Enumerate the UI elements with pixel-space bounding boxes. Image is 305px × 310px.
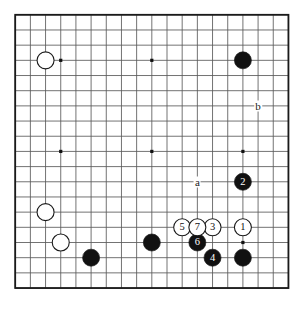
go-board-canvas: 1234567 xyxy=(0,0,305,310)
stone-move-6-black[interactable]: 6 xyxy=(189,234,206,251)
star-point xyxy=(59,59,62,62)
stone-move-number: 2 xyxy=(240,176,245,187)
stone-move-number: 1 xyxy=(240,221,245,232)
stone-white-upper-left[interactable] xyxy=(37,52,54,69)
white-stone-disc xyxy=(37,204,54,221)
stone-white-left-lower-2[interactable] xyxy=(52,234,69,251)
star-point xyxy=(150,150,153,153)
black-stone-disc xyxy=(143,234,160,251)
stone-move-5-white[interactable]: 5 xyxy=(174,219,191,236)
stone-move-number: 3 xyxy=(210,221,215,232)
stone-move-number: 5 xyxy=(180,221,185,232)
stone-move-7-white[interactable]: 7 xyxy=(189,219,206,236)
black-stone-disc xyxy=(234,249,251,266)
stone-black-bottom-right[interactable] xyxy=(234,249,251,266)
stone-black-bottom-center[interactable] xyxy=(143,234,160,251)
point-label-b: b xyxy=(254,100,262,111)
stone-black-upper-right[interactable] xyxy=(234,52,251,69)
stone-move-number: 6 xyxy=(195,236,200,247)
stone-move-number: 7 xyxy=(195,221,200,232)
stone-move-number: 4 xyxy=(210,252,216,263)
star-point xyxy=(150,59,153,62)
stone-move-3-white[interactable]: 3 xyxy=(204,219,221,236)
point-label-a: a xyxy=(194,176,201,187)
white-stone-disc xyxy=(52,234,69,251)
black-stone-disc xyxy=(83,249,100,266)
star-point xyxy=(241,241,244,244)
stone-black-bottom-left[interactable] xyxy=(83,249,100,266)
white-stone-disc xyxy=(37,52,54,69)
stone-move-1-white[interactable]: 1 xyxy=(234,219,251,236)
black-stone-disc xyxy=(234,52,251,69)
star-point xyxy=(59,150,62,153)
star-point xyxy=(241,150,244,153)
stone-move-2-black[interactable]: 2 xyxy=(234,173,251,190)
stone-move-4-black[interactable]: 4 xyxy=(204,249,221,266)
stone-white-left-lower-1[interactable] xyxy=(37,204,54,221)
go-board-diagram: 1234567 ab xyxy=(0,0,305,310)
